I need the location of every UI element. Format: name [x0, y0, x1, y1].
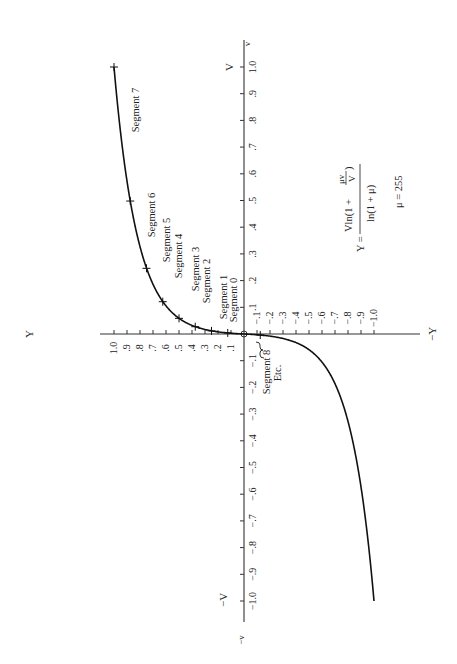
y-tick-label: −.7	[329, 311, 340, 324]
formula: Y = Vln(1 + μv V ) ln(1 + μ) μ = 255	[336, 164, 404, 252]
v-tick-label: .1	[247, 304, 258, 312]
y-tick-label: −.5	[303, 311, 314, 324]
v-tick-label: −.2	[247, 381, 258, 394]
mu-law-chart: .1.2.3.4.5.6.7.8.91.0−.1−.2−.3−.4−.5−.6−…	[0, 0, 457, 664]
v-tick-label: −1.0	[247, 592, 258, 610]
formula-numerator-frac-top: μv	[336, 174, 346, 184]
v-axis-label-pos: V	[223, 63, 235, 71]
v-tick-label: 1.0	[247, 61, 258, 74]
y-tick-label: −.6	[316, 311, 327, 324]
formula-numerator-frac-bottom: V	[347, 175, 357, 182]
y-tick-label: −.9	[355, 311, 366, 324]
y-tick-label: .8	[134, 344, 145, 352]
v-tick-label: −.7	[247, 514, 258, 527]
formula-mu: μ = 255	[393, 175, 404, 208]
v-tick-label: −.4	[247, 434, 258, 447]
y-tick-label: .7	[147, 344, 158, 352]
v-axis-end-label-neg: −v	[236, 635, 246, 645]
y-tick-label: −.3	[277, 311, 288, 324]
y-axis-label-pos: Y	[23, 330, 35, 338]
segment-7-label: Segment 7	[130, 88, 141, 133]
segment-6-label: Segment 6	[146, 193, 157, 238]
v-tick-label: .4	[247, 223, 258, 231]
y-tick-label: .9	[121, 344, 132, 352]
segment-3-label: Segment 3	[190, 247, 201, 292]
segment-2-label: Segment 2	[201, 259, 212, 304]
v-axis-label-neg: −V	[217, 593, 229, 607]
y-axis-label-neg: −Y	[426, 327, 438, 341]
formula-lhs: Y =	[355, 236, 366, 252]
y-tick-label: .1	[225, 344, 236, 352]
v-tick-label: .9	[247, 90, 258, 98]
v-tick-label: .5	[247, 197, 258, 205]
y-tick-label: −.2	[264, 311, 275, 324]
segment-5-label: Segment 5	[161, 218, 172, 263]
y-tick-label: −1.0	[368, 309, 379, 327]
formula-numerator-close: )	[343, 166, 355, 170]
v-tick-label: .6	[247, 170, 258, 178]
segment-8-label: Segment 8	[261, 350, 272, 395]
y-tick-label: .2	[212, 344, 223, 352]
formula-denominator: ln(1 + μ)	[365, 184, 377, 222]
y-tick-label: .5	[173, 344, 184, 352]
v-tick-label: −.8	[247, 541, 258, 554]
y-tick-label: .3	[199, 344, 210, 352]
chart-canvas: .1.2.3.4.5.6.7.8.91.0−.1−.2−.3−.4−.5−.6−…	[0, 0, 457, 664]
v-tick-label: .7	[247, 143, 258, 151]
v-tick-label: .3	[247, 250, 258, 258]
v-tick-label: −.3	[247, 408, 258, 421]
y-tick-label: −.1	[251, 311, 262, 324]
v-tick-label: −.6	[247, 488, 258, 501]
y-tick-label: −.8	[342, 311, 353, 324]
y-tick-label: .4	[186, 344, 197, 352]
v-tick-label: −.5	[247, 461, 258, 474]
axes	[100, 40, 420, 622]
y-tick-label: 1.0	[108, 342, 119, 355]
v-tick-label: −.9	[247, 568, 258, 581]
v-tick-label: .8	[247, 117, 258, 125]
v-axis-end-label-pos: v	[242, 41, 252, 46]
etc-label: Etc.	[272, 365, 283, 382]
v-tick-label: −.1	[247, 354, 258, 367]
v-tick-label: .2	[247, 277, 258, 285]
formula-numerator: Vln(1 +	[343, 199, 355, 232]
segment-4-label: Segment 4	[173, 233, 184, 278]
y-tick-label: −.4	[290, 311, 301, 324]
y-tick-label: .6	[160, 344, 171, 352]
segment-0-label: Segment 0	[228, 278, 239, 323]
